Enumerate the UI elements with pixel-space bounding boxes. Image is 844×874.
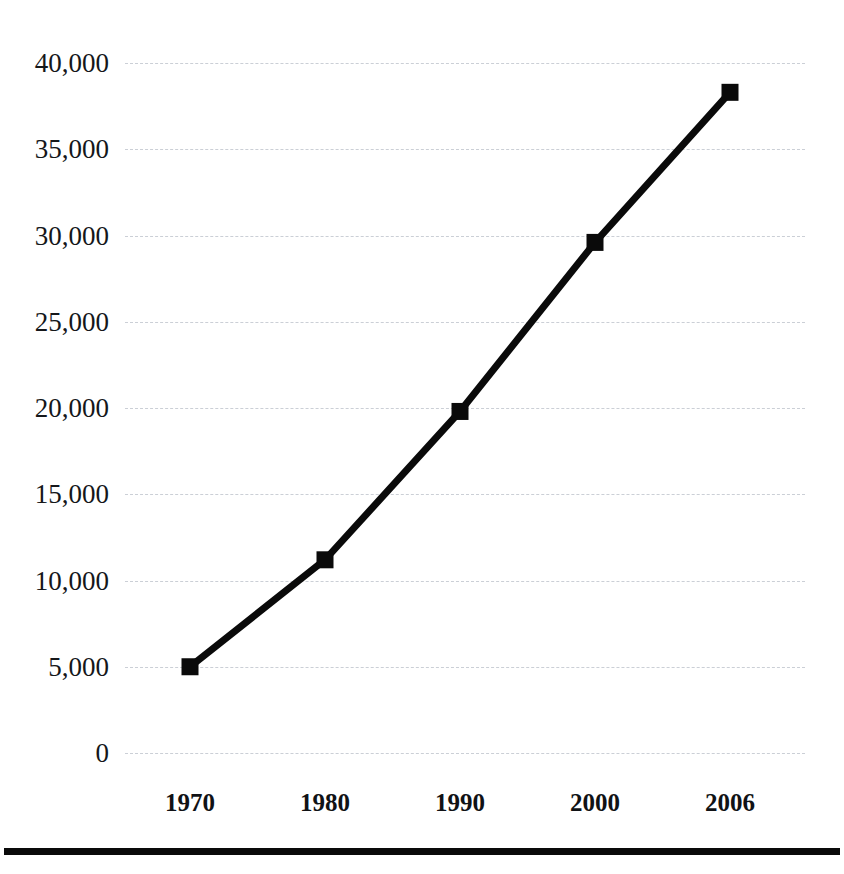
- gridline: [125, 581, 805, 582]
- bottom-divider-rule: [4, 848, 840, 855]
- gridline: [125, 322, 805, 323]
- y-tick-label: 10,000: [0, 568, 109, 595]
- plot-area: 05,00010,00015,00020,00025,00030,00035,0…: [0, 0, 844, 874]
- y-tick-label: 35,000: [0, 136, 109, 163]
- x-tick-label: 1980: [255, 790, 395, 815]
- y-tick-label: 25,000: [0, 309, 109, 336]
- series-markers: [182, 84, 739, 675]
- x-tick-label: 2000: [525, 790, 665, 815]
- gridline: [125, 753, 805, 754]
- x-tick-label: 1990: [390, 790, 530, 815]
- y-tick-label: 0: [0, 740, 109, 767]
- data-point-marker: [452, 403, 469, 420]
- x-tick-label: 2006: [660, 790, 800, 815]
- gridline: [125, 494, 805, 495]
- data-point-marker: [722, 84, 739, 101]
- data-point-marker: [317, 551, 334, 568]
- y-tick-label: 30,000: [0, 223, 109, 250]
- line-chart-figure: 05,00010,00015,00020,00025,00030,00035,0…: [0, 0, 844, 874]
- data-series-layer: [0, 0, 844, 874]
- gridline: [125, 63, 805, 64]
- x-tick-label: 1970: [120, 790, 260, 815]
- gridline: [125, 236, 805, 237]
- y-tick-label: 20,000: [0, 395, 109, 422]
- gridline: [125, 667, 805, 668]
- y-tick-label: 15,000: [0, 481, 109, 508]
- gridline: [125, 408, 805, 409]
- gridline: [125, 149, 805, 150]
- y-tick-label: 5,000: [0, 654, 109, 681]
- y-tick-label: 40,000: [0, 50, 109, 77]
